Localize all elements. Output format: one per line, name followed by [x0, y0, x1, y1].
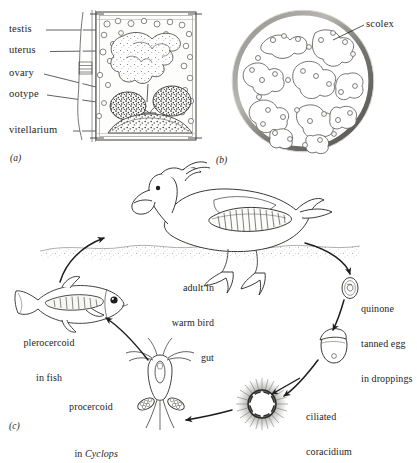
- arrow-fish-to-bird: [60, 238, 104, 282]
- panel-b-letter: (b): [216, 155, 227, 166]
- label-adult-line3: gut: [138, 352, 214, 364]
- label-plerocercoid-line2: in fish: [2, 372, 96, 384]
- label-egg-line3: in droppings: [361, 373, 417, 385]
- arrow-coracidium-to-cyclops: [186, 410, 232, 420]
- arrow-egg-to-hatching: [333, 300, 344, 330]
- label-adult-in-bird: adult in warm bird gut: [138, 258, 214, 376]
- label-ciliated-coracidium: ciliated coracidium: [306, 387, 390, 463]
- label-coracidium-line2: coracidium: [306, 446, 390, 458]
- label-adult-line2: warm bird: [138, 317, 214, 329]
- label-adult-line1: adult in: [138, 282, 214, 294]
- label-procercoid-line1: procercoid: [44, 401, 138, 413]
- panel-c-letter: (c): [9, 421, 20, 432]
- label-ovary: ovary: [9, 67, 34, 79]
- label-ootype: ootype: [9, 88, 39, 100]
- label-vitellarium: vitellarium: [9, 124, 57, 136]
- label-cyclops-genus: Cyclops: [85, 448, 118, 459]
- label-plerocercoid-in-fish: plerocercoid in fish: [2, 313, 96, 396]
- quinone-tanned-egg: [342, 278, 358, 299]
- label-plerocercoid-line1: plerocercoid: [2, 337, 96, 349]
- panel-a-letter: (a): [10, 153, 21, 164]
- label-egg-line1: quinone: [361, 303, 417, 315]
- panel-b-cyst: [232, 10, 374, 153]
- label-quinone-egg: quinone tanned egg in droppings: [361, 279, 417, 397]
- panel-a-proglottid: [44, 10, 202, 142]
- label-scolex: scolex: [366, 18, 394, 30]
- label-uterus: uterus: [9, 44, 36, 56]
- label-egg-line2: tanned egg: [361, 338, 417, 350]
- operculate-egg: [320, 329, 347, 363]
- label-procercoid-prefix: in: [74, 448, 85, 459]
- label-procercoid-line2: in Cyclops: [44, 436, 138, 463]
- label-testis: testis: [9, 23, 32, 35]
- label-coracidium-line1: ciliated: [306, 411, 390, 423]
- ciliated-coracidium: [236, 378, 288, 430]
